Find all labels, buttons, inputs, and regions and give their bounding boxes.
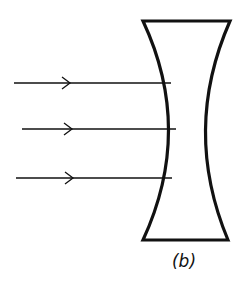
lens-diagram (0, 0, 243, 282)
concave-lens (143, 21, 230, 240)
light-ray-1 (14, 77, 171, 89)
figure-label: (b) (166, 251, 202, 271)
light-ray-3 (16, 172, 172, 184)
light-ray-2 (22, 123, 176, 135)
